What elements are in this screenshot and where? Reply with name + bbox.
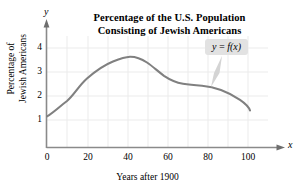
y-axis-label-line-1: Percentage of <box>6 14 18 124</box>
callout-paren-close: ) <box>238 41 241 52</box>
x-tick-label: 20 <box>79 152 97 162</box>
x-tick-label: 60 <box>159 152 177 162</box>
chart-title-line-1: Percentage of the U.S. Population <box>62 12 277 25</box>
chart-title-line-2: Consisting of Jewish Americans <box>62 25 277 38</box>
x-tick-label: 100 <box>237 152 259 162</box>
y-axis-letter: y <box>44 6 48 17</box>
gridlines-horizontal <box>47 48 268 120</box>
x-axis-label: Years after 1900 <box>47 172 248 182</box>
x-tick-label: 80 <box>199 152 217 162</box>
y-axis-label: Percentage of Jewish Americans <box>6 14 29 124</box>
x-tick-label: 0 <box>38 152 56 162</box>
y-tick-label: 2 <box>30 90 42 100</box>
x-axis <box>47 145 286 151</box>
y-axis <box>44 19 50 148</box>
function-label-callout: y = f(x) <box>205 39 248 55</box>
y-axis-label-line-2: Jewish Americans <box>17 14 29 124</box>
y-tick-label: 3 <box>30 66 42 76</box>
x-tick-label: 40 <box>119 152 137 162</box>
x-axis-letter: x <box>288 139 292 150</box>
y-tick-label: 4 <box>30 42 42 52</box>
chart-figure: Percentage of the U.S. Population Consis… <box>0 0 305 192</box>
y-tick-label: 1 <box>30 114 42 124</box>
chart-title: Percentage of the U.S. Population Consis… <box>62 12 277 37</box>
